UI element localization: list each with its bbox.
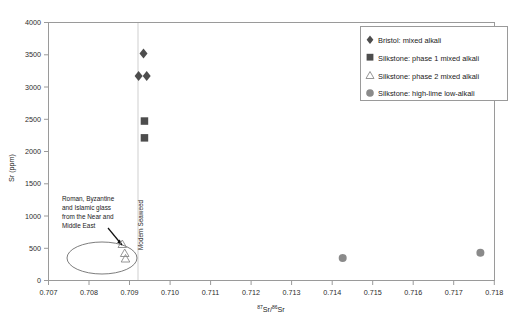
data-point-square [141,117,149,125]
x-tick-label: 0.713 [283,288,301,297]
y-tick-label: 4000 [25,18,41,27]
x-tick-label: 0.709 [121,288,139,297]
chart-canvas: 0 500 1000 1500 2000 2500 3000 3500 4000… [0,0,518,328]
legend-marker-square [367,54,374,61]
chart-legend: Bristol: mixed alkali Silkstone: phase 1… [361,27,508,101]
x-tick-label: 0.714 [323,288,341,297]
x-tick-label: 0.712 [242,288,260,297]
legend-label-silkstone-high-lime: Silkstone: high-lime low-alkali [378,89,475,98]
y-axis: 0 500 1000 1500 2000 2500 3000 3500 4000 [25,18,49,285]
x-axis: 0.707 0.708 0.709 0.710 0.711 0.712 0.71… [40,281,504,298]
y-tick-label: 1500 [25,179,41,188]
annotation-line: and Islamic glass [62,204,111,212]
data-point-square [141,134,149,142]
legend-marker-circle [366,89,374,97]
y-axis-title: Sr (ppm) [7,154,16,182]
legend-label-silkstone-phase1: Silkstone: phase 1 mixed alkali [378,54,479,63]
data-point-diamond [143,71,151,81]
legend-label-silkstone-phase2: Silkstone: phase 2 mixed alkali [378,72,479,81]
data-point-diamond [135,71,143,81]
x-tick-label: 0.718 [485,288,503,297]
data-point-circle [476,249,484,257]
scatter-chart: 0 500 1000 1500 2000 2500 3000 3500 4000… [0,0,518,328]
x-axis-title: 87Sr/86Sr [257,304,285,315]
x-tick-label: 0.710 [161,288,179,297]
x-tick-label: 0.715 [364,288,382,297]
legend-label-bristol-mixed-alkali: Bristol: mixed alkali [378,36,442,45]
series-bristol-mixed-alkali [135,49,151,82]
data-point-circle [339,254,347,262]
x-tick-label: 0.717 [445,288,463,297]
annotation-line: Middle East [62,222,96,229]
annotation-line: Roman, Byzantine [62,195,115,203]
y-tick-label: 0 [37,276,41,285]
data-point-diamond [140,49,148,59]
x-axis-title-sr: Sr [278,305,286,314]
y-tick-label: 2500 [25,115,41,124]
x-tick-label: 0.708 [80,288,98,297]
modern-seaweed-label: Modern Seaweed [137,199,144,250]
near-east-annotation: Roman, Byzantine and Islamic glass from … [62,195,115,229]
x-tick-label: 0.716 [404,288,422,297]
y-tick-label: 3000 [25,83,41,92]
x-axis-title-sr-slash: Sr/ [263,305,272,314]
annotation-line: from the Near and [62,213,114,220]
y-tick-label: 2000 [25,147,41,156]
y-tick-label: 1000 [25,212,41,221]
x-tick-label: 0.707 [40,288,58,297]
x-tick-label: 0.711 [202,288,219,297]
y-tick-label: 500 [29,244,41,253]
series-silkstone-high-lime [339,249,485,262]
series-silkstone-phase1 [141,117,149,141]
y-tick-label: 3500 [25,50,41,59]
